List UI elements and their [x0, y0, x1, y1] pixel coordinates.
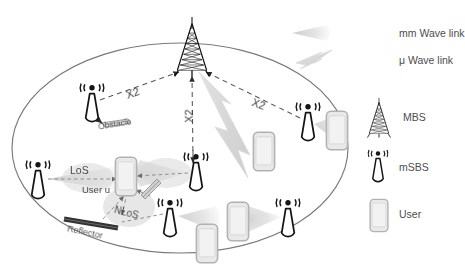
macro-base-station[interactable]	[175, 17, 210, 76]
user-phone-icon	[370, 199, 388, 231]
user-bottom-left[interactable]	[196, 224, 217, 262]
legend-label-msbs: mSBS	[399, 161, 429, 173]
user-bottom-mid[interactable]	[227, 202, 248, 240]
beam-bottom-right	[245, 206, 282, 232]
legend-label-mm-wave: mm Wave link	[399, 27, 465, 39]
msbs-antenna-icon	[368, 150, 388, 182]
msbs-right[interactable]	[296, 103, 320, 141]
legend-label-mbs: MBS	[403, 111, 426, 123]
mu-wave-bolt-icon	[296, 50, 332, 69]
legend-label-user: User	[399, 208, 421, 220]
label-user-u: User u	[82, 184, 110, 195]
user-right-upper[interactable]	[326, 111, 347, 149]
user-u-center[interactable]	[115, 157, 136, 195]
msbs-bottom-right[interactable]	[276, 199, 300, 237]
mu-wave-link-bolt	[199, 72, 250, 178]
label-x2-center: X2	[183, 109, 195, 122]
msbs-left[interactable]	[26, 161, 50, 199]
legend-label-mu-wave: μ Wave link	[399, 54, 453, 66]
user-mid-right[interactable]	[253, 132, 274, 170]
cell-boundary	[12, 43, 348, 253]
mbs-tower-icon	[367, 98, 390, 138]
mm-wave-beam-icon	[292, 25, 330, 41]
label-los: LoS	[70, 164, 89, 176]
msbs-top-left[interactable]	[80, 84, 104, 122]
msbs-bottom-left[interactable]	[158, 199, 182, 237]
